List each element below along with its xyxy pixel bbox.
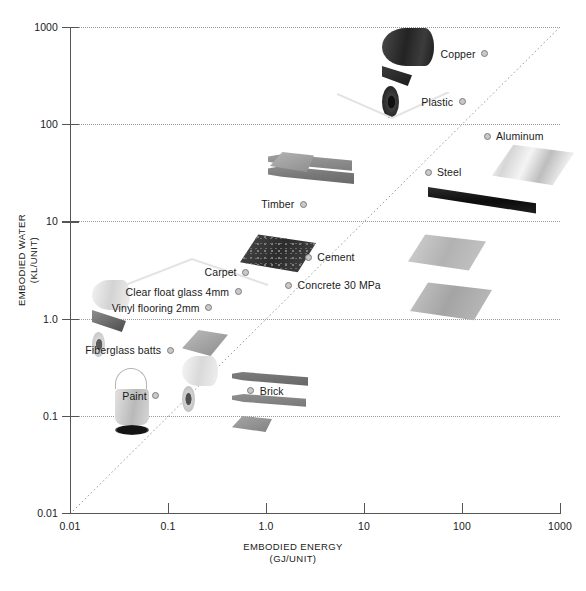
y-axis-title-line2: (KL/UNIT): [28, 190, 40, 330]
x-tick-1.0: [266, 503, 267, 514]
x-tick-label-100: 100: [432, 520, 492, 532]
point-label-clear-float-glass-4mm: Clear float glass 4mm: [126, 286, 230, 297]
x-axis-line: [70, 513, 560, 514]
gridline-y-10: [70, 221, 560, 222]
marker-carpet[interactable]: [242, 269, 249, 276]
x-axis-title: EMBODIED ENERGY (GJ/UNIT): [0, 541, 586, 565]
x-tick-0.01: [70, 503, 71, 514]
marker-clear-float-glass-4mm[interactable]: [235, 288, 242, 295]
point-label-steel: Steel: [437, 167, 461, 178]
cement-slab-image: [408, 232, 486, 272]
point-label-timber: Timber: [261, 199, 294, 210]
y-axis-title-line1: EMBODIED WATER: [16, 214, 27, 306]
point-label-brick: Brick: [260, 385, 284, 396]
y-tick-label-100: 100: [12, 119, 58, 130]
point-label-carpet: Carpet: [205, 267, 237, 278]
point-label-paint: Paint: [122, 390, 146, 401]
point-label-copper: Copper: [441, 48, 476, 59]
x-tick-1000: [560, 503, 561, 514]
point-label-cement: Cement: [317, 252, 354, 263]
y-axis-line: [70, 27, 71, 514]
fiberglass-roll-image: [182, 330, 254, 382]
x-tick-10: [364, 503, 365, 514]
y-tick-100: [62, 124, 79, 125]
marker-timber[interactable]: [300, 201, 307, 208]
marker-vinyl-flooring-2mm[interactable]: [205, 304, 212, 311]
marker-fiberglass-batts[interactable]: [167, 347, 174, 354]
point-label-aluminum: Aluminum: [496, 131, 543, 142]
point-label-fiberglass-batts: Fiberglass batts: [85, 345, 161, 356]
point-label-vinyl-flooring-2mm: Vinyl flooring 2mm: [112, 302, 200, 313]
x-tick-100: [462, 503, 463, 514]
gridline-y-0.1: [70, 416, 560, 417]
concrete-slab-image: [410, 280, 492, 322]
marker-copper[interactable]: [481, 50, 488, 57]
gridline-y-100: [70, 124, 560, 125]
y-tick-10: [62, 221, 79, 222]
marker-aluminum[interactable]: [484, 133, 491, 140]
x-axis-title-line2: (GJ/UNIT): [0, 553, 586, 565]
marker-plastic[interactable]: [459, 98, 466, 105]
steel-beam-image: [428, 186, 536, 214]
marker-steel[interactable]: [425, 169, 432, 176]
marker-concrete-30-mpa[interactable]: [285, 282, 292, 289]
y-tick-label-1000: 1000: [12, 22, 58, 33]
y-tick-0.1: [62, 416, 79, 417]
x-tick-0.1: [168, 503, 169, 514]
marker-cement[interactable]: [305, 254, 312, 261]
point-label-concrete-30-mpa: Concrete 30 MPa: [298, 280, 381, 291]
point-label-plastic: Plastic: [421, 96, 453, 107]
y-tick-label-0.1: 0.1: [12, 411, 58, 422]
y-tick-label-0.01: 0.01: [12, 508, 58, 519]
gridline-y-1000: [70, 27, 560, 28]
x-tick-label-1.0: 1.0: [236, 520, 296, 532]
aluminum-sheet-image: [492, 143, 574, 187]
marker-brick[interactable]: [247, 387, 254, 394]
x-tick-label-0.1: 0.1: [138, 520, 198, 532]
diagonal-reference-line: [70, 27, 560, 514]
x-tick-label-10: 10: [334, 520, 394, 532]
timber-beams-image: [262, 148, 362, 200]
y-tick-1000: [62, 27, 79, 28]
y-tick-1.0: [62, 319, 79, 320]
chart-canvas: 1000100101.00.10.01 0.010.11.0101001000 …: [0, 0, 586, 591]
x-tick-label-1000: 1000: [530, 520, 586, 532]
y-axis-title: EMBODIED WATER (KL/UNIT): [16, 190, 40, 330]
carpet-swatch-image: [240, 232, 316, 274]
x-axis-title-line1: EMBODIED ENERGY: [243, 541, 342, 552]
x-tick-label-0.01: 0.01: [40, 520, 100, 532]
marker-paint[interactable]: [152, 392, 159, 399]
gridline-y-1.0: [70, 319, 560, 320]
